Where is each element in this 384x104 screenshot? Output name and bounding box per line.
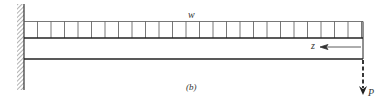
- point-load-arrow: [359, 60, 367, 95]
- figure-caption: (b): [186, 83, 197, 92]
- load-label-w: w: [188, 10, 195, 20]
- fixed-wall: [17, 4, 24, 90]
- distributed-load: [24, 22, 363, 39]
- force-label-p: P: [368, 88, 374, 98]
- axis-label-z: z: [311, 41, 315, 51]
- z-axis-arrow: [320, 45, 361, 50]
